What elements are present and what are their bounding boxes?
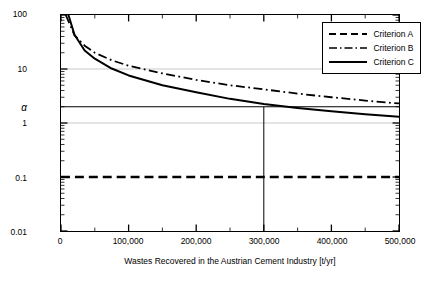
- legend-sample-dashed-icon: [328, 28, 368, 40]
- x-tick-label-200000: 200,000: [181, 236, 212, 246]
- y-tick-label-10: 10: [18, 64, 27, 74]
- legend: Criterion A Criterion B Criterion C: [322, 22, 421, 74]
- legend-sample-solid-icon: [328, 56, 368, 68]
- legend-item-criterion-a: Criterion A: [328, 27, 414, 41]
- alpha-annotation-label: α: [21, 102, 27, 113]
- y-tick-label-100: 100: [13, 9, 27, 19]
- x-tick-label-0: 0: [58, 236, 63, 246]
- legend-item-criterion-b: Criterion B: [328, 41, 414, 55]
- legend-label-criterion-b: Criterion B: [373, 43, 413, 53]
- legend-item-criterion-c: Criterion C: [328, 55, 414, 69]
- x-axis-label: Wastes Recovered in the Austrian Cement …: [60, 256, 400, 266]
- x-tick-label-300000: 300,000: [249, 236, 280, 246]
- chart-figure: Mercury concentration [mg/kg] Wastes Rec…: [0, 0, 431, 286]
- x-tick-label-500000: 500,000: [385, 236, 416, 246]
- y-tick-label-1: 1: [22, 118, 27, 128]
- legend-sample-dashdot-icon: [328, 42, 368, 54]
- x-tick-label-400000: 400,000: [317, 236, 348, 246]
- y-tick-label-0.1: 0.1: [15, 173, 27, 183]
- legend-label-criterion-c: Criterion C: [373, 57, 414, 67]
- y-tick-label-0.01: 0.01: [10, 227, 27, 237]
- legend-label-criterion-a: Criterion A: [373, 29, 413, 39]
- x-tick-label-100000: 100,000: [113, 236, 144, 246]
